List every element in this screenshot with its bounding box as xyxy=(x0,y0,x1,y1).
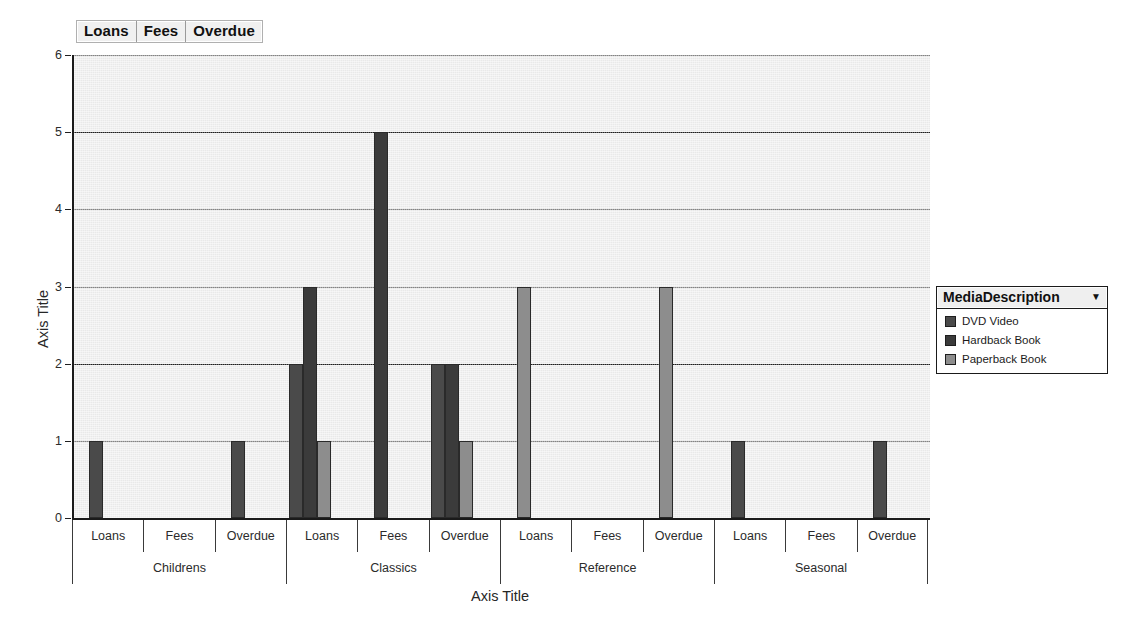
bar-classics-overdue-hardback-book[interactable] xyxy=(445,364,459,518)
y-tick-label-5: 5 xyxy=(36,125,62,139)
bar-group-classics xyxy=(288,55,502,518)
plot-area xyxy=(72,55,930,520)
y-tick-mark-5 xyxy=(65,132,71,133)
bar-subgroup-loans xyxy=(288,55,360,518)
x-group-label-classics: Classics xyxy=(286,552,500,584)
legend-item[interactable]: DVD Video xyxy=(945,315,1101,327)
legend[interactable]: MediaDescription ▼ DVD VideoHardback Boo… xyxy=(936,286,1108,374)
bar-seasonal-overdue-dvd-video[interactable] xyxy=(873,441,887,518)
legend-item[interactable]: Paperback Book xyxy=(945,353,1101,365)
legend-item[interactable]: Hardback Book xyxy=(945,334,1101,346)
bar-seasonal-loans-dvd-video[interactable] xyxy=(731,441,745,518)
bar-reference-overdue-paperback-book[interactable] xyxy=(659,287,673,519)
x-label-classics-overdue: Overdue xyxy=(429,520,500,552)
bar-group-childrens xyxy=(74,55,288,518)
y-tick-mark-3 xyxy=(65,287,71,288)
legend-items: DVD VideoHardback BookPaperback Book xyxy=(937,309,1107,373)
x-axis-title: Axis Title xyxy=(72,588,928,604)
bar-classics-overdue-paperback-book[interactable] xyxy=(459,441,473,518)
y-tick-mark-2 xyxy=(65,364,71,365)
legend-swatch-icon xyxy=(945,316,956,327)
x-axis-labels: LoansFeesOverdueLoansFeesOverdueLoansFee… xyxy=(72,520,930,584)
y-tick-label-6: 6 xyxy=(36,48,62,62)
bar-childrens-overdue-dvd-video[interactable] xyxy=(231,441,245,518)
x-axis-outer-labels: ChildrensClassicsReferenceSeasonal xyxy=(72,552,930,584)
legend-item-label: Hardback Book xyxy=(962,334,1041,346)
y-tick-label-1: 1 xyxy=(36,434,62,448)
x-label-classics-loans: Loans xyxy=(286,520,357,552)
legend-swatch-icon xyxy=(945,354,956,365)
y-tick-label-3: 3 xyxy=(36,280,62,294)
x-group-label-reference: Reference xyxy=(500,552,714,584)
x-label-classics-fees: Fees xyxy=(357,520,428,552)
y-tick-mark-6 xyxy=(65,55,71,56)
bar-group-seasonal xyxy=(716,55,930,518)
bar-chart: Axis Title 0123456 LoansFeesOverdueLoans… xyxy=(0,0,1147,638)
x-label-seasonal-fees: Fees xyxy=(785,520,856,552)
y-tick-mark-1 xyxy=(65,441,71,442)
bars-layer xyxy=(74,55,930,518)
x-label-childrens-overdue: Overdue xyxy=(215,520,286,552)
bar-group-reference xyxy=(502,55,716,518)
x-label-reference-loans: Loans xyxy=(500,520,571,552)
x-label-childrens-loans: Loans xyxy=(72,520,143,552)
x-label-reference-fees: Fees xyxy=(571,520,642,552)
legend-item-label: DVD Video xyxy=(962,315,1019,327)
x-label-seasonal-loans: Loans xyxy=(714,520,785,552)
legend-item-label: Paperback Book xyxy=(962,353,1046,365)
y-tick-label-2: 2 xyxy=(36,357,62,371)
y-tick-mark-0 xyxy=(65,518,71,519)
y-tick-label-4: 4 xyxy=(36,202,62,216)
bar-subgroup-overdue xyxy=(431,55,503,518)
legend-title: MediaDescription xyxy=(943,289,1060,305)
bar-classics-loans-dvd-video[interactable] xyxy=(289,364,303,518)
x-group-label-seasonal: Seasonal xyxy=(714,552,928,584)
bar-classics-fees-hardback-book[interactable] xyxy=(374,132,388,518)
bar-classics-loans-hardback-book[interactable] xyxy=(303,287,317,519)
x-label-childrens-fees: Fees xyxy=(143,520,214,552)
bar-classics-loans-paperback-book[interactable] xyxy=(317,441,331,518)
legend-swatch-icon xyxy=(945,335,956,346)
bar-subgroup-overdue xyxy=(859,55,945,518)
y-tick-label-0: 0 xyxy=(36,511,62,525)
x-label-reference-overdue: Overdue xyxy=(643,520,714,552)
bar-classics-overdue-dvd-video[interactable] xyxy=(431,364,445,518)
y-tick-mark-4 xyxy=(65,209,71,210)
bar-childrens-loans-dvd-video[interactable] xyxy=(89,441,103,518)
x-axis-inner-labels: LoansFeesOverdueLoansFeesOverdueLoansFee… xyxy=(72,520,930,552)
legend-header[interactable]: MediaDescription ▼ xyxy=(937,287,1107,309)
y-axis-title: Axis Title xyxy=(35,290,51,348)
x-label-seasonal-overdue: Overdue xyxy=(857,520,928,552)
chevron-down-icon[interactable]: ▼ xyxy=(1091,292,1101,302)
bar-reference-loans-paperback-book[interactable] xyxy=(517,287,531,519)
x-group-label-childrens: Childrens xyxy=(72,552,286,584)
